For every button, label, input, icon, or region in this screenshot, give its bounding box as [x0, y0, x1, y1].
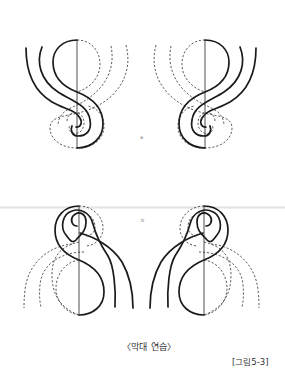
dashed-arc	[182, 40, 205, 92]
figure-b-left	[24, 206, 133, 315]
dashed-arc	[204, 260, 227, 315]
figure-number: [그림5-3]	[232, 355, 269, 367]
dashed-arc	[211, 244, 259, 308]
figure-caption: 〈막대 연습〉	[122, 340, 176, 353]
panel-label-b: b	[141, 217, 144, 223]
stroke-practice-diagram	[0, 0, 285, 385]
solid-stroke	[39, 47, 90, 136]
dashed-arc	[24, 244, 72, 308]
dashed-arc	[56, 260, 79, 315]
solid-stroke	[168, 210, 221, 307]
figure-a-left	[26, 40, 128, 148]
solid-stroke	[63, 210, 116, 307]
solid-stroke	[80, 233, 133, 308]
solid-stroke	[150, 233, 203, 308]
figure-b-right	[150, 206, 259, 315]
figure-a-right	[154, 40, 256, 148]
dashed-arc	[50, 45, 128, 148]
dashed-arc	[154, 45, 232, 148]
dashed-arc	[77, 40, 100, 92]
panel-label-a: a	[140, 134, 143, 140]
solid-stroke	[192, 47, 243, 136]
